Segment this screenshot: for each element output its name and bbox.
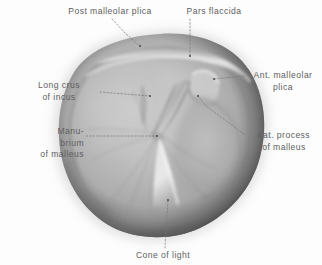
label-ant-malleolar-plica: Ant. malleolar plica bbox=[246, 70, 320, 93]
label-pars-flaccida: Pars flaccida bbox=[174, 6, 254, 18]
anatomical-figure: Post malleolar plica Pars flaccida Ant. … bbox=[0, 0, 322, 265]
endpoint-pars-flaccida bbox=[189, 55, 191, 57]
endpoint-cone-of-light bbox=[167, 199, 169, 201]
label-manubrium-of-malleus: Manu- brium of malleus bbox=[6, 126, 84, 161]
endpoint-manubrium-of-malleus bbox=[156, 135, 158, 137]
label-long-crus-of-incus: Long crus of incus bbox=[20, 80, 98, 103]
endpoint-ant-malleolar-plica bbox=[213, 78, 215, 80]
endpoint-post-malleolar-plica bbox=[139, 45, 141, 47]
endpoint-lat-process-of-malleus bbox=[197, 95, 199, 97]
label-lat-process-of-malleus: Lat. process of malleus bbox=[246, 130, 322, 153]
label-cone-of-light: Cone of light bbox=[111, 250, 215, 262]
label-post-malleolar-plica: Post malleolar plica bbox=[58, 6, 162, 18]
endpoint-long-crus-of-incus bbox=[149, 95, 151, 97]
